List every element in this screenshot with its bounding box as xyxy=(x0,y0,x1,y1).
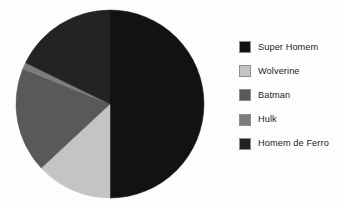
legend-label-wolverine: Wolverine xyxy=(258,66,300,77)
chart-legend: Super Homem Wolverine Batman Hulk Homem … xyxy=(239,41,344,165)
legend-label-homem-de-ferro: Homem de Ferro xyxy=(258,138,329,149)
legend-label-super-homem: Super Homem xyxy=(258,42,318,53)
legend-item-hulk[interactable]: Hulk xyxy=(239,114,344,126)
pie-svg xyxy=(0,0,230,206)
legend-item-homem-de-ferro[interactable]: Homem de Ferro xyxy=(239,138,344,150)
pie-slice-group xyxy=(16,10,204,198)
pie-plot-area xyxy=(0,0,230,206)
legend-swatch-hulk xyxy=(239,114,251,126)
legend-label-batman: Batman xyxy=(258,90,290,101)
legend-label-hulk: Hulk xyxy=(258,114,277,125)
legend-item-wolverine[interactable]: Wolverine xyxy=(239,65,344,77)
legend-item-batman[interactable]: Batman xyxy=(239,89,344,101)
legend-swatch-homem-de-ferro xyxy=(239,138,251,150)
legend-swatch-super-homem xyxy=(239,41,251,53)
pie-slice[interactable] xyxy=(110,10,204,198)
legend-swatch-wolverine xyxy=(239,65,251,77)
pie-chart-figure: Super Homem Wolverine Batman Hulk Homem … xyxy=(0,0,344,206)
legend-item-super-homem[interactable]: Super Homem xyxy=(239,41,344,53)
legend-swatch-batman xyxy=(239,89,251,101)
